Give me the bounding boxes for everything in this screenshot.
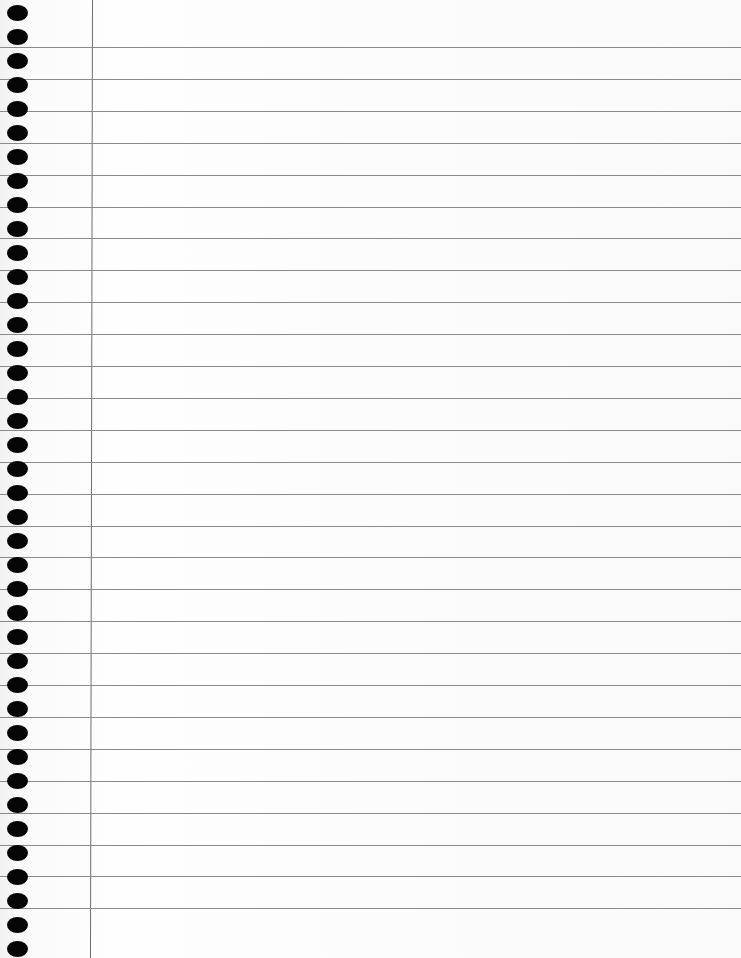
binder-hole-icon bbox=[7, 125, 28, 141]
ruled-line bbox=[0, 876, 741, 877]
binder-hole-icon bbox=[7, 533, 28, 549]
ruled-line bbox=[0, 749, 741, 750]
ruled-line bbox=[0, 653, 741, 654]
ruled-line bbox=[0, 781, 741, 782]
binder-hole-icon bbox=[7, 173, 28, 189]
binder-hole-icon bbox=[7, 821, 28, 837]
binder-hole-icon bbox=[7, 869, 28, 885]
binder-hole-icon bbox=[7, 365, 28, 381]
ruled-line bbox=[0, 143, 741, 144]
ruled-line bbox=[0, 334, 741, 335]
binder-hole-icon bbox=[7, 509, 28, 525]
ruled-line bbox=[0, 494, 741, 495]
ruled-line bbox=[0, 845, 741, 846]
binder-hole-icon bbox=[7, 149, 28, 165]
ruled-line bbox=[0, 908, 741, 909]
binder-hole-icon bbox=[7, 197, 28, 213]
binder-hole-icon bbox=[7, 101, 28, 117]
binder-hole-icon bbox=[7, 317, 28, 333]
binder-hole-icon bbox=[7, 461, 28, 477]
binder-hole-icon bbox=[7, 485, 28, 501]
ruled-line bbox=[0, 366, 741, 367]
ruled-line bbox=[0, 238, 741, 239]
ruled-line bbox=[0, 207, 741, 208]
ruled-line bbox=[0, 813, 741, 814]
binder-hole-icon bbox=[7, 221, 28, 237]
ruled-line bbox=[0, 79, 741, 80]
binder-hole-icon bbox=[7, 797, 28, 813]
binder-hole-icon bbox=[7, 701, 28, 717]
binder-hole-icon bbox=[7, 5, 28, 21]
ruled-line bbox=[0, 621, 741, 622]
ruled-line bbox=[0, 111, 741, 112]
ruled-line bbox=[0, 302, 741, 303]
binder-hole-icon bbox=[7, 653, 28, 669]
ruled-line bbox=[0, 398, 741, 399]
binder-hole-icon bbox=[7, 293, 28, 309]
binder-hole-icon bbox=[7, 605, 28, 621]
binder-hole-icon bbox=[7, 845, 28, 861]
binder-hole-icon bbox=[7, 245, 28, 261]
binder-hole-icon bbox=[7, 557, 28, 573]
binder-hole-icon bbox=[7, 749, 28, 765]
ruled-line bbox=[0, 717, 741, 718]
ruled-line bbox=[0, 47, 741, 48]
binder-hole-icon bbox=[7, 893, 28, 909]
binder-hole-icon bbox=[7, 917, 28, 933]
binder-hole-icon bbox=[7, 725, 28, 741]
binder-hole-icon bbox=[7, 341, 28, 357]
ruled-line bbox=[0, 557, 741, 558]
binder-hole-icon bbox=[7, 413, 28, 429]
ruled-line bbox=[0, 589, 741, 590]
binder-hole-icon bbox=[7, 437, 28, 453]
binder-hole-icon bbox=[7, 77, 28, 93]
ruled-line bbox=[0, 270, 741, 271]
binder-hole-icon bbox=[7, 29, 28, 45]
binder-hole-icon bbox=[7, 581, 28, 597]
ruled-line bbox=[0, 526, 741, 527]
binder-hole-icon bbox=[7, 389, 28, 405]
notebook-page bbox=[0, 0, 741, 958]
ruled-line bbox=[0, 175, 741, 176]
ruled-line bbox=[0, 430, 741, 431]
binder-hole-icon bbox=[7, 773, 28, 789]
binder-hole-icon bbox=[7, 269, 28, 285]
ruled-line bbox=[0, 685, 741, 686]
binder-hole-icon bbox=[7, 677, 28, 693]
binder-hole-icon bbox=[7, 53, 28, 69]
ruled-line bbox=[0, 462, 741, 463]
binder-hole-icon bbox=[7, 629, 28, 645]
binder-hole-icon bbox=[7, 941, 28, 957]
